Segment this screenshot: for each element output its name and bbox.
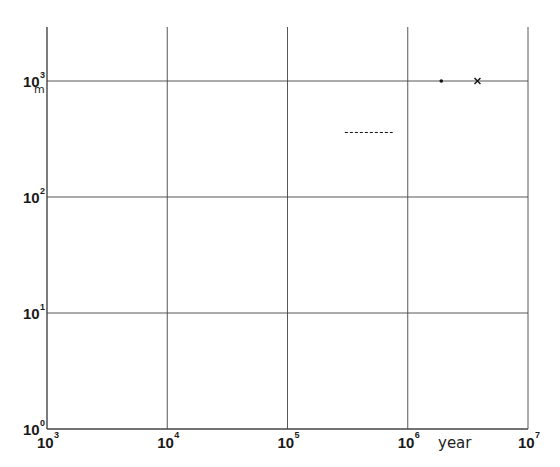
data-point-dot	[439, 79, 443, 83]
y-tick-exponent: 2	[40, 186, 45, 196]
y-tick-exponent: 1	[40, 302, 45, 312]
x-tick-label: 10	[518, 434, 535, 451]
x-tick-label: 10	[278, 434, 295, 451]
y-tick-label: 10	[23, 421, 40, 438]
log-log-chart: 103104105106107100101102103myear	[0, 0, 560, 467]
x-tick-exponent: 7	[535, 430, 540, 440]
series-dot	[439, 79, 443, 83]
x-tick-exponent: 5	[295, 430, 300, 440]
x-tick-label: 10	[398, 434, 415, 451]
x-tick-label: 10	[157, 434, 174, 451]
y-tick-label: 10	[23, 189, 40, 206]
x-axis-label: year	[438, 434, 472, 452]
grid	[47, 27, 528, 429]
y-tick-label: 10	[23, 305, 40, 322]
y-axis-label: m	[34, 83, 45, 96]
x-tick-exponent: 3	[54, 430, 59, 440]
y-tick-exponent: 3	[40, 70, 45, 80]
x-tick-exponent: 4	[174, 430, 179, 440]
y-tick-exponent: 0	[40, 418, 45, 428]
y-tick-labels: 100101102103	[23, 70, 45, 438]
x-tick-exponent: 6	[415, 430, 420, 440]
